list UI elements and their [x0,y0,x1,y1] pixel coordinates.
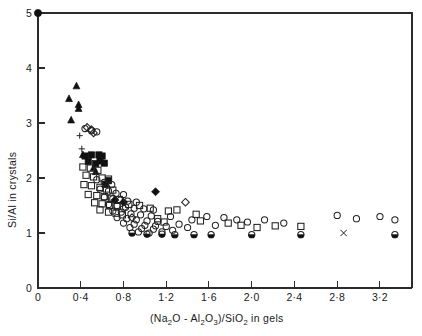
x-tick-label: 2·8 [329,291,345,303]
y-axis-title-text: Si/Al in crystals [6,152,18,228]
svg-text:(Na2O - Al2O3)/SiO2 in gels: (Na2O - Al2O3)/SiO2 in gels [150,312,284,327]
scatter-plot-figure: 00·40·81·21·62·02·42·83·2012345 (Na2O - … [0,0,422,336]
x-tick-label: 1·2 [158,291,174,303]
x-tick-label: 1·6 [201,291,217,303]
x-tick-label: 2·4 [287,291,303,303]
x-tick-label: 0·4 [73,291,89,303]
axes-group [38,13,412,288]
y-axis-title: Si/Al in crystals [2,110,22,230]
x-axis-title: (Na2O - Al2O3)/SiO2 in gels [150,308,360,336]
series-plus [77,133,85,152]
plot-canvas: 00·40·81·21·62·02·42·83·2012345 [0,0,422,336]
y-tick-label: 1 [26,227,32,239]
axis-spines [38,13,412,288]
series-x-cross [341,230,347,236]
series-filled-circle [34,9,41,16]
axis-frame-top-right [38,13,412,288]
y-tick-label: 3 [26,117,32,129]
x-tick-label: 0·8 [116,291,132,303]
ticks-group [38,13,380,288]
data-points-group [34,9,398,237]
x-tick-label: 3·2 [372,291,388,303]
y-tick-label: 0 [26,282,32,294]
x-tick-label: 2·0 [244,291,260,303]
y-tick-label: 2 [26,172,32,184]
y-tick-label: 5 [26,7,32,19]
x-tick-label: 0 [35,291,41,303]
y-tick-label: 4 [26,62,32,74]
tick-labels-group: 00·40·81·21·62·02·42·83·2012345 [26,7,388,303]
series-open-circle [82,125,398,236]
